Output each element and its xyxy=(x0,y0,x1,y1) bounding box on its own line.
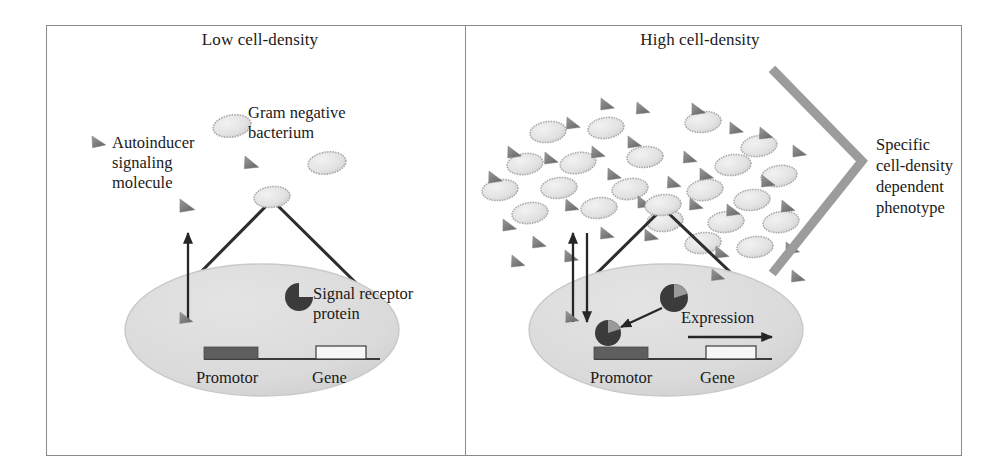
label-autoinducer-signaling-molecule: Autoinducer signaling molecule xyxy=(112,133,194,193)
panel-title-low-cell-density: Low cell-density xyxy=(180,30,340,50)
label-specific-cell-density-dependent-phenotype: Specific cell-density dependent phenotyp… xyxy=(876,134,953,218)
label-expression: Expression xyxy=(681,308,754,328)
label-gene-low: Gene xyxy=(312,368,347,388)
panel-title-high-cell-density: High cell-density xyxy=(600,30,800,50)
label-promotor-high: Promotor xyxy=(590,368,652,388)
label-gram-negative-bacterium: Gram negative bacterium xyxy=(248,103,346,143)
figure-outer-frame xyxy=(46,25,962,456)
label-signal-receptor-protein: Signal receptor protein xyxy=(313,284,413,324)
panel-divider xyxy=(465,25,466,456)
label-gene-high: Gene xyxy=(700,368,735,388)
label-promotor-low: Promotor xyxy=(196,368,258,388)
figure-canvas: Low cell-density High cell-density xyxy=(0,0,1004,476)
